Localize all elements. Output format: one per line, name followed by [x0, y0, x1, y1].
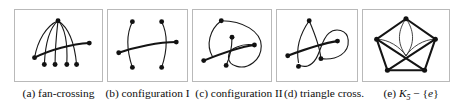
- edge-left-vertical: [128, 22, 132, 68]
- edge-right-vertical: [162, 22, 166, 68]
- vertex-upper-right: [433, 37, 438, 42]
- vertex-right: [87, 41, 92, 46]
- vertex-left: [285, 53, 290, 58]
- edge-apex-to-bottom-left: [298, 21, 310, 63]
- caption-e-math-close: }: [433, 87, 438, 99]
- edge-diagonal: [288, 41, 338, 56]
- vertex-left: [32, 55, 37, 60]
- edge-upper-left-to-lower-right: [377, 39, 425, 70]
- vertex-right: [174, 40, 179, 45]
- vertex-center-bottom: [318, 56, 323, 61]
- edge-upper-right-to-lower-left: [387, 39, 435, 70]
- vertex-bottom: [296, 64, 301, 69]
- vertex-right: [335, 39, 340, 44]
- vertex-top: [219, 18, 224, 23]
- vertex-top-left: [130, 19, 135, 24]
- caption-panel-d: (d) triangle cross.: [281, 84, 367, 102]
- caption-panel-a: (a) fan-crossing: [8, 84, 109, 102]
- vertex-lower-left: [385, 68, 390, 73]
- vertex-bottom-left: [130, 65, 135, 70]
- vertex-center: [230, 35, 235, 40]
- vertex-bottom: [224, 63, 229, 68]
- figure-container: (a) fan-crossing (b) configuration I (c)…: [0, 0, 462, 104]
- panel-a-fan-crossing: [14, 9, 103, 82]
- vertex-bottom-4: [74, 62, 79, 67]
- vertex-bottom-right: [159, 65, 164, 70]
- vertex-left: [201, 58, 206, 63]
- edge-lens-right: [406, 19, 413, 56]
- vertex-left: [116, 50, 121, 55]
- panel-a-drawing: [15, 10, 102, 81]
- edge-top-to-upper-left: [377, 19, 406, 39]
- caption-panel-e: (e) K5 − {e}: [377, 84, 445, 102]
- vertex-upper-left: [374, 37, 379, 42]
- edge-top-to-upper-right: [406, 19, 435, 39]
- panel-d-drawing: [277, 10, 357, 81]
- vertex-lower-right: [422, 68, 427, 73]
- panel-c-configuration-ii: [192, 9, 272, 82]
- caption-panel-c: (c) configuration II: [190, 84, 288, 102]
- vertex-top: [403, 16, 408, 21]
- edge-lens-left: [399, 19, 406, 56]
- edge-top-to-left-arc: [209, 21, 221, 57]
- vertex-apex: [307, 18, 312, 23]
- vertex-right: [252, 43, 257, 48]
- panel-e-drawing: [363, 10, 449, 81]
- edge-crossing: [35, 43, 90, 58]
- caption-panel-b: (b) configuration I: [99, 84, 196, 102]
- panel-b-drawing: [108, 10, 187, 81]
- panel-d-triangle-crossing: [276, 9, 358, 82]
- caption-e-prefix: (e): [383, 87, 399, 99]
- panel-row: (a) fan-crossing (b) configuration I (c)…: [0, 0, 462, 104]
- edge-apex-to-b2b: [55, 21, 58, 65]
- panel-c-drawing: [193, 10, 271, 81]
- panel-e-k5-minus-edge: [362, 9, 450, 82]
- vertex-bottom-1: [42, 62, 47, 67]
- caption-e-math-op: − {: [410, 87, 428, 99]
- vertex-bottom-3: [64, 62, 69, 67]
- vertex-top-right: [159, 19, 164, 24]
- panel-b-configuration-i: [107, 9, 188, 82]
